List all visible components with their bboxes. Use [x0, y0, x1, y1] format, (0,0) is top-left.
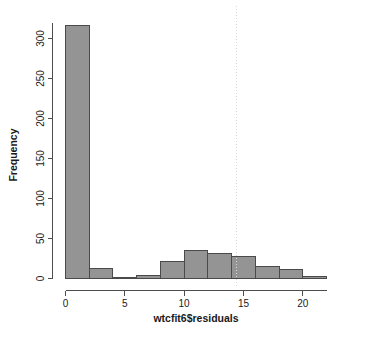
x-axis-tick-label: 15 — [238, 298, 250, 309]
histogram-bar — [303, 276, 327, 278]
histogram-bar — [113, 278, 137, 279]
histogram-bar — [160, 262, 184, 279]
y-axis-tick-label: 0 — [35, 275, 46, 281]
y-axis-tick-label: 50 — [35, 233, 46, 245]
histogram-bar — [232, 256, 256, 278]
y-axis: 050100150200250300 — [35, 23, 53, 282]
x-axis-title: wtcfit6$residuals — [152, 312, 238, 324]
y-axis-ticks: 050100150200250300 — [35, 30, 53, 282]
x-axis-tick-label: 20 — [297, 298, 309, 309]
y-axis-tick-label: 150 — [35, 150, 46, 167]
histogram-canvas: 050100150200250300 05101520 wtcfit6$resi… — [0, 0, 366, 343]
x-axis: 05101520 — [63, 291, 327, 310]
histogram-bar — [279, 270, 303, 279]
histogram-bar — [255, 267, 279, 279]
histogram-bar — [137, 275, 161, 278]
histogram-bars — [66, 26, 327, 279]
x-axis-tick-label: 5 — [122, 298, 128, 309]
x-axis-ticks: 05101520 — [63, 291, 309, 310]
y-axis-tick-label: 200 — [35, 110, 46, 127]
y-axis-tick-label: 250 — [35, 70, 46, 87]
histogram-bar — [89, 269, 113, 279]
y-axis-tick-label: 100 — [35, 190, 46, 207]
histogram-bar — [208, 254, 232, 279]
histogram-plot: 050100150200250300 05101520 wtcfit6$resi… — [0, 0, 366, 343]
histogram-bar — [66, 26, 90, 279]
x-axis-tick-label: 0 — [63, 298, 69, 309]
histogram-bar — [184, 251, 208, 279]
y-axis-tick-label: 300 — [35, 30, 46, 47]
y-axis-title: Frequency — [7, 128, 19, 181]
x-axis-tick-label: 10 — [179, 298, 191, 309]
